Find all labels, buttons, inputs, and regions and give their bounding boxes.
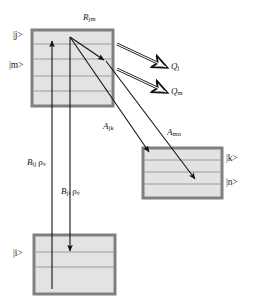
- label-Q-j: Qj: [171, 62, 179, 72]
- label-ket-j: |j>: [13, 31, 22, 41]
- label-A-jk: Ajk: [103, 122, 114, 132]
- label-ket-n: |n>: [226, 178, 237, 188]
- label-B-ij-rho-v: Bijρv: [27, 158, 46, 168]
- box-right-manifold: [143, 148, 222, 198]
- label-ket-m: |m>: [9, 61, 23, 71]
- label-Q-m: Qm: [171, 87, 183, 97]
- label-R-jm: Rjm: [83, 13, 96, 23]
- energy-level-diagram: Rjm |j> |m> Qj Qm Ajk Amn |k> |n> Bijρv …: [0, 0, 256, 298]
- box-lower-manifold: [34, 235, 115, 294]
- arrow-quench-Q-j: [117, 44, 166, 67]
- arrow-quench-Q-m: [117, 69, 166, 92]
- label-B-ji-rho-v: Bjiρv: [61, 187, 80, 197]
- label-A-mn: Amn: [167, 128, 181, 138]
- label-ket-k: |k>: [226, 154, 237, 164]
- diagram-canvas: [0, 0, 256, 298]
- label-ket-i: |i>: [13, 249, 22, 259]
